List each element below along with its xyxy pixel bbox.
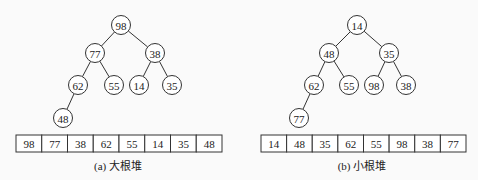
- figure-caption: (b) 小根堆: [338, 159, 387, 173]
- node-value: 38: [401, 80, 413, 92]
- node-value: 55: [109, 80, 121, 92]
- tree-edge: [100, 61, 109, 77]
- tree-node: 48: [54, 109, 73, 128]
- tree-edge: [159, 61, 167, 76]
- cell-value: 38: [75, 138, 87, 150]
- tree-edge: [318, 62, 325, 77]
- tree-node: 38: [146, 44, 165, 63]
- tree-node: 98: [365, 76, 384, 95]
- tree-node: 98: [112, 16, 131, 35]
- array-representation: 9877386255143548: [16, 135, 222, 152]
- tree-node: 48: [320, 44, 339, 63]
- tree-node: 35: [380, 44, 399, 63]
- figure-caption: (a) 大根堆: [94, 159, 142, 173]
- cell-value: 77: [448, 138, 460, 150]
- cell-value: 55: [371, 138, 383, 150]
- array-cell: 98: [16, 135, 42, 152]
- array-cell: 14: [261, 135, 287, 152]
- node-value: 48: [324, 48, 336, 60]
- array-cell: 14: [145, 135, 171, 152]
- tree-node: 55: [340, 76, 359, 95]
- array-cell: 35: [312, 135, 338, 152]
- array-cell: 98: [389, 135, 415, 152]
- tree-node: 62: [305, 76, 324, 95]
- cell-value: 48: [204, 138, 216, 150]
- array-cell: 38: [415, 135, 441, 152]
- heap-diagram: 98773862551435489877386255143548(a) 大根堆1…: [0, 0, 478, 180]
- cell-value: 55: [126, 138, 138, 150]
- cell-value: 98: [23, 138, 35, 150]
- tree-node: 38: [397, 76, 416, 95]
- tree-node: 77: [290, 109, 309, 128]
- cell-value: 77: [49, 138, 61, 150]
- tree-edge: [364, 31, 382, 46]
- node-value: 77: [90, 48, 102, 60]
- node-value: 14: [134, 80, 146, 92]
- node-value: 98: [369, 80, 381, 92]
- tree-node: 55: [105, 76, 124, 95]
- array-cell: 38: [68, 135, 94, 152]
- node-value: 62: [73, 80, 84, 92]
- min-heap: 14483562559838771448356255983877(b) 小根堆: [261, 16, 466, 174]
- array-cell: 62: [93, 135, 119, 152]
- array-cell: 55: [119, 135, 145, 152]
- array-cell: 77: [42, 135, 68, 152]
- max-heap: 98773862551435489877386255143548(a) 大根堆: [16, 16, 222, 174]
- array-cell: 77: [440, 135, 466, 152]
- tree-edge: [128, 31, 147, 47]
- tree-node: 77: [86, 44, 105, 63]
- tree-edge: [378, 62, 385, 77]
- cell-value: 62: [345, 138, 356, 150]
- node-value: 35: [384, 48, 396, 60]
- tree-edge: [143, 61, 151, 76]
- node-value: 35: [167, 80, 179, 92]
- tree-edge: [67, 94, 74, 110]
- tree-node: 14: [130, 76, 149, 95]
- array-cell: 55: [364, 135, 390, 152]
- array-cell: 48: [287, 135, 313, 152]
- array-cell: 62: [338, 135, 364, 152]
- node-value: 48: [58, 113, 70, 125]
- cell-value: 14: [152, 138, 164, 150]
- cell-value: 98: [396, 138, 408, 150]
- array-cell: 48: [196, 135, 222, 152]
- cell-value: 14: [268, 138, 280, 150]
- tree-edge: [82, 61, 90, 76]
- cell-value: 48: [294, 138, 306, 150]
- tree-edge: [334, 61, 344, 77]
- array-representation: 1448356255983877: [261, 135, 466, 152]
- tree-edge: [303, 94, 310, 110]
- array-cell: 35: [171, 135, 197, 152]
- node-value: 14: [352, 20, 364, 32]
- node-value: 55: [344, 80, 356, 92]
- cell-value: 62: [101, 138, 112, 150]
- tree-node: 35: [163, 76, 182, 95]
- node-value: 38: [150, 48, 162, 60]
- tree-node: 14: [348, 16, 367, 35]
- cell-value: 35: [320, 138, 332, 150]
- node-value: 77: [294, 113, 306, 125]
- tree-node: 62: [69, 76, 88, 95]
- tree-edge: [393, 61, 401, 76]
- cell-value: 38: [422, 138, 434, 150]
- cell-value: 35: [178, 138, 190, 150]
- tree-edge: [101, 32, 114, 46]
- tree-edge: [336, 32, 351, 47]
- node-value: 62: [309, 80, 320, 92]
- node-value: 98: [116, 20, 128, 32]
